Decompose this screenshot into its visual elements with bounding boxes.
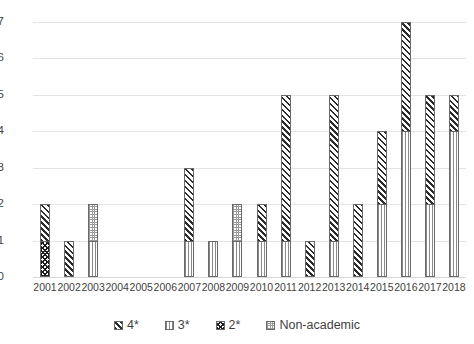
bar-segment-2002-4star [64,241,74,277]
y-tick-label-1: 1 [0,235,4,247]
bar-segment-2015-3star [377,204,387,277]
bar-segment-2016-4star [401,22,411,131]
bar-segment-2015-4star [377,131,387,204]
bar-column-2013 [329,95,339,277]
bar-segment-2014-4star [353,204,363,277]
bar-column-2008 [208,241,218,277]
bar-series-group [33,22,466,277]
bar-segment-2010-4star [257,204,267,240]
bar-segment-2007-3star [184,241,194,277]
chart-legend: 4*3*2*Non-academic [0,318,474,332]
y-tick-label-4: 4 [0,125,4,137]
legend-label: 2* [229,318,241,332]
x-tick-label-2018: 2018 [437,281,471,293]
legend-label: 4* [127,318,139,332]
bar-segment-2009-3star [232,241,242,277]
bar-segment-2003-Non-academic [88,204,98,240]
bar-column-2011 [281,95,291,277]
bar-column-2003 [88,204,98,277]
legend-swatch-icon [165,321,174,330]
bar-segment-2018-3star [449,131,459,277]
legend-label: 3* [178,318,190,332]
y-tick-label-6: 6 [0,52,4,64]
bar-segment-2011-4star [281,95,291,241]
bar-column-2002 [64,241,74,277]
legend-swatch-icon [216,321,225,330]
bar-segment-2003-3star [88,241,98,277]
bar-segment-2017-4star [425,95,435,204]
gridline-0 [33,277,466,278]
bar-column-2018 [449,95,459,277]
legend-swatch-icon [114,321,123,330]
stacked-bar-chart: 01234567 2001200220032004200520062007200… [0,0,474,344]
legend-label: Non-academic [279,318,360,332]
bar-column-2010 [257,204,267,277]
bar-segment-2010-3star [257,241,267,277]
bar-segment-2018-4star [449,95,459,131]
y-tick-label-0: 0 [0,271,4,283]
bar-segment-2016-3star [401,131,411,277]
y-tick-label-2: 2 [0,198,4,210]
bar-segment-2013-3star [329,241,339,277]
bar-segment-2001-4star [40,204,50,240]
bar-column-2017 [425,95,435,277]
bar-segment-2012-4star [305,241,315,277]
bar-column-2012 [305,241,315,277]
bar-segment-2017-3star [425,204,435,277]
legend-item-3star[interactable]: 3* [165,318,190,332]
legend-swatch-icon [266,321,275,330]
x-axis: 2001200220032004200520062007200820092010… [33,281,466,297]
bar-column-2014 [353,204,363,277]
bar-segment-2007-4star [184,168,194,241]
bar-column-2016 [401,22,411,277]
plot-area [33,22,466,277]
y-tick-label-7: 7 [0,16,4,28]
y-tick-label-5: 5 [0,89,4,101]
bar-segment-2009-Non-academic [232,204,242,240]
legend-item-non-academic[interactable]: Non-academic [266,318,360,332]
legend-item-4star[interactable]: 4* [114,318,139,332]
bar-segment-2008-3star [208,241,218,277]
y-tick-label-3: 3 [0,162,4,174]
bar-column-2001 [40,204,50,277]
legend-item-2star[interactable]: 2* [216,318,241,332]
bar-column-2009 [232,204,242,277]
bar-column-2015 [377,131,387,277]
bar-segment-2013-4star [329,95,339,241]
bar-column-2007 [184,168,194,277]
bar-segment-2011-3star [281,241,291,277]
bar-segment-2001-2star [40,241,50,277]
